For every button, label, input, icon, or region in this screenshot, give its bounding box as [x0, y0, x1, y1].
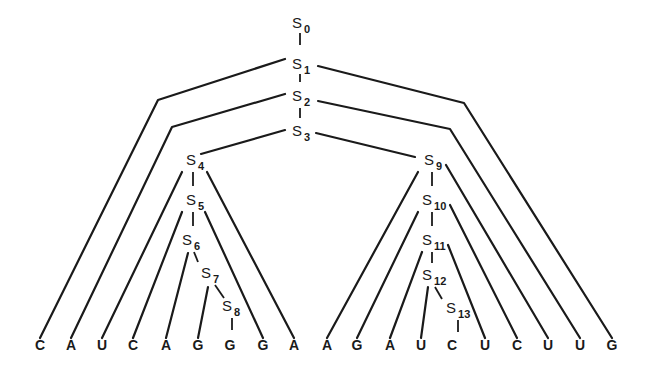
node-s6: S6 — [182, 231, 200, 252]
node-s9: S9 — [424, 151, 442, 172]
edge-s9-left — [327, 172, 418, 338]
chain-link — [194, 252, 198, 262]
edge-s5-left — [133, 212, 182, 338]
leaf-nucleotide: G — [258, 337, 269, 353]
leaf-nucleotide: A — [66, 337, 76, 353]
leaf-nucleotide: U — [416, 337, 426, 353]
node-s12: S12 — [422, 266, 446, 287]
node-s3: S3 — [292, 122, 310, 143]
tree-nodes: S0S1S2S3S4S5S6S7S8S9S10S11S12S13 — [182, 14, 470, 320]
leaf-nucleotide: A — [289, 337, 299, 353]
edge-s12-left — [421, 287, 428, 338]
leaf-nucleotide: A — [322, 337, 332, 353]
node-s13: S13 — [446, 299, 470, 320]
node-s1: S1 — [292, 55, 310, 76]
node-chain-links — [193, 33, 458, 332]
leaf-nucleotide: C — [447, 337, 457, 353]
leaf-nucleotide: G — [352, 337, 363, 353]
edge-s6-left — [166, 253, 188, 338]
edge-s1-left — [40, 59, 285, 338]
leaf-nucleotide: U — [97, 337, 107, 353]
edge-s11-left — [390, 252, 422, 338]
node-s7: S7 — [201, 264, 219, 285]
parse-tree-diagram: S0S1S2S3S4S5S6S7S8S9S10S11S12S13 CAUCAGG… — [0, 0, 650, 368]
leaf-nucleotide: C — [35, 337, 45, 353]
node-s0: S0 — [292, 14, 310, 35]
leaf-nucleotide: C — [512, 337, 522, 353]
node-s5: S5 — [186, 191, 204, 212]
chain-link — [435, 287, 442, 299]
leaf-nucleotide: U — [575, 337, 585, 353]
leaf-nucleotide: A — [161, 337, 171, 353]
node-s8: S8 — [222, 297, 240, 318]
edge-s1-right — [318, 66, 612, 338]
edge-s3-left — [201, 130, 285, 154]
leaf-nucleotide: G — [607, 337, 618, 353]
edge-s3-right — [316, 133, 415, 157]
node-s2: S2 — [292, 87, 310, 108]
edge-s11-right — [448, 245, 485, 338]
edge-s2-left — [71, 94, 285, 338]
leaf-nucleotide: G — [193, 337, 204, 353]
node-s10: S10 — [422, 191, 446, 212]
leaf-nucleotide: C — [128, 337, 138, 353]
tree-edges — [40, 59, 612, 338]
leaf-nucleotide: U — [480, 337, 490, 353]
edge-s7-left — [198, 287, 208, 338]
edge-s10-left — [357, 212, 418, 338]
leaf-nucleotide: G — [225, 337, 236, 353]
leaf-nucleotide: A — [385, 337, 395, 353]
sequence-leaves: CAUCAGGGAAGAUCUCUUG — [35, 337, 618, 353]
node-s11: S11 — [422, 231, 446, 252]
leaf-nucleotide: U — [543, 337, 553, 353]
